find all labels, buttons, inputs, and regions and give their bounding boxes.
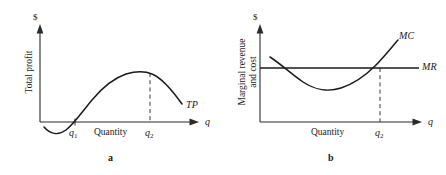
x-axis-symbol-b: q: [428, 117, 433, 127]
y-axis-title-b-line1: Marginal revenue: [237, 24, 248, 120]
economics-figure: $ Total profit q Quantity q1 q2 TP a: [0, 0, 446, 175]
curve-label-mc: MC: [399, 31, 414, 41]
curve-label-mr: MR: [422, 62, 437, 72]
curve-mc: [270, 40, 398, 90]
marker-label-q2-a: q2: [145, 128, 154, 138]
x-axis-b: [260, 119, 422, 126]
y-axis-a: [37, 24, 44, 122]
x-axis-title-b: Quantity: [311, 128, 344, 138]
y-axis-title-a: Total profit: [24, 36, 35, 108]
panel-a-total-profit: $ Total profit q Quantity q1 q2 TP a: [0, 0, 223, 175]
marker-label-q2-b: q2: [375, 128, 384, 138]
curve-label-tp: TP: [186, 100, 198, 110]
marker-q1-sub: 1: [74, 132, 78, 140]
marker-q2-sub-a: 2: [150, 132, 154, 140]
x-axis-symbol-a: q: [205, 117, 210, 127]
y-axis-title-b: Marginal revenue and cost: [237, 24, 258, 120]
x-axis-title-a: Quantity: [94, 128, 127, 138]
marker-label-q1: q1: [69, 128, 78, 138]
panel-caption-b: b: [328, 152, 334, 163]
y-axis-unit-a: $: [33, 13, 38, 22]
y-axis-unit-b: $: [253, 13, 258, 22]
panel-caption-a: a: [108, 152, 113, 163]
curve-tp: [44, 72, 182, 134]
x-axis-a: [40, 119, 199, 126]
panel-b-marginal-revenue-cost: $ Marginal revenue and cost q Quantity q…: [223, 0, 446, 175]
marker-q2-sub-b: 2: [380, 132, 384, 140]
y-axis-title-b-line2: and cost: [248, 24, 259, 120]
